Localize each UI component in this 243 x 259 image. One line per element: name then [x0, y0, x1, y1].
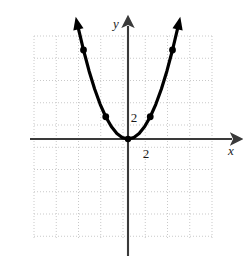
point-right-inner	[147, 113, 154, 120]
y-axis-label: y	[111, 16, 119, 31]
x-tick-2: 2	[143, 146, 150, 161]
figure-background	[0, 0, 243, 259]
point-left-inner	[102, 113, 109, 120]
point-right-outer	[169, 47, 176, 54]
x-axis-label: x	[227, 143, 234, 158]
y-tick-2: 2	[131, 110, 138, 125]
point-left-outer	[80, 47, 87, 54]
parabola-graph-svg: x y 22	[0, 0, 243, 259]
point-vertex	[125, 136, 131, 142]
graph-figure: x y 22	[0, 0, 243, 259]
